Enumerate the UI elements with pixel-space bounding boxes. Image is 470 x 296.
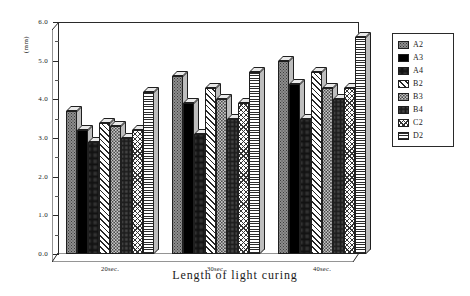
- bar-a4-30sec[interactable]: [194, 134, 205, 254]
- legend-swatch-a3: [398, 54, 409, 62]
- bar-face: [344, 88, 355, 254]
- legend-swatch-c2: [398, 119, 409, 127]
- bar-group: [66, 22, 162, 254]
- bar-b3-40sec[interactable]: [322, 88, 333, 254]
- bar-face: [110, 126, 121, 254]
- legend-swatch-b4: [398, 106, 409, 114]
- legend: A2A3A4B2B3B4C2D2: [392, 33, 454, 147]
- plot-area: 0.01.02.03.04.05.06.0 20sec.30sec.40sec.: [52, 22, 359, 262]
- bar-d2-40sec[interactable]: [355, 37, 366, 254]
- legend-item-b2[interactable]: B2: [398, 77, 449, 90]
- legend-swatch-b2: [398, 80, 409, 88]
- bar-b3-20sec[interactable]: [110, 126, 121, 254]
- bar-d2-30sec[interactable]: [249, 72, 260, 254]
- bar-d2-20sec[interactable]: [143, 92, 154, 254]
- bar-a4-20sec[interactable]: [88, 142, 99, 254]
- legend-swatch-b3: [398, 93, 409, 101]
- bar-a3-20sec[interactable]: [77, 130, 88, 254]
- bar-b4-40sec[interactable]: [333, 99, 344, 254]
- legend-item-a3[interactable]: A3: [398, 51, 449, 64]
- legend-item-b4[interactable]: B4: [398, 103, 449, 116]
- bar-face: [322, 88, 333, 254]
- bar-face: [99, 123, 110, 254]
- bar-face: [121, 138, 132, 254]
- bar-a4-40sec[interactable]: [300, 119, 311, 254]
- bar-face: [249, 72, 260, 254]
- legend-label: C2: [413, 119, 423, 127]
- bar-b2-20sec[interactable]: [99, 123, 110, 254]
- bar-group: [278, 22, 374, 254]
- legend-label: B2: [413, 80, 423, 88]
- legend-item-c2[interactable]: C2: [398, 116, 449, 129]
- bar-face: [66, 111, 77, 254]
- bar-face: [278, 61, 289, 254]
- x-axis-title: Length of light curing: [0, 268, 470, 283]
- bar-a2-20sec[interactable]: [66, 111, 77, 254]
- bar-side: [260, 67, 265, 254]
- legend-item-a2[interactable]: A2: [398, 38, 449, 51]
- bar-face: [289, 84, 300, 254]
- legend-item-b3[interactable]: B3: [398, 90, 449, 103]
- chart-root: (mm) 0.01.02.03.04.05.06.0 20sec.30sec.4…: [0, 0, 470, 296]
- legend-label: A2: [413, 41, 423, 49]
- bar-face: [311, 72, 322, 254]
- bar-face: [355, 37, 366, 254]
- bar-a3-40sec[interactable]: [289, 84, 300, 254]
- bar-face: [205, 88, 216, 254]
- bar-face: [194, 134, 205, 254]
- bar-face: [227, 119, 238, 254]
- y-tick-label: 4.0: [38, 96, 48, 103]
- bar-face: [216, 99, 227, 254]
- bar-a3-30sec[interactable]: [183, 103, 194, 254]
- legend-swatch-d2: [398, 132, 409, 140]
- y-tick-label: 3.0: [38, 135, 48, 142]
- bar-side: [366, 32, 371, 254]
- bar-b2-40sec[interactable]: [311, 72, 322, 254]
- bar-face: [333, 99, 344, 254]
- bar-face: [238, 103, 249, 254]
- y-tick-label: 2.0: [38, 173, 48, 180]
- bar-groups: [58, 22, 359, 254]
- bar-face: [300, 119, 311, 254]
- y-tick-label: 6.0: [38, 19, 48, 26]
- y-tick: [53, 254, 59, 255]
- bar-b3-30sec[interactable]: [216, 99, 227, 254]
- legend-label: B3: [413, 93, 423, 101]
- bar-face: [88, 142, 99, 254]
- legend-item-a4[interactable]: A4: [398, 64, 449, 77]
- bar-face: [132, 130, 143, 254]
- bar-face: [77, 130, 88, 254]
- y-tick-label: 0.0: [38, 251, 48, 258]
- legend-label: A4: [413, 67, 423, 75]
- legend-label: D2: [413, 132, 423, 140]
- y-axis-title: (mm): [22, 36, 30, 53]
- bar-side: [154, 87, 159, 254]
- legend-label: B4: [413, 106, 423, 114]
- y-tick-label: 5.0: [38, 57, 48, 64]
- legend-label: A3: [413, 54, 423, 62]
- bar-c2-40sec[interactable]: [344, 88, 355, 254]
- legend-item-d2[interactable]: D2: [398, 129, 449, 142]
- bar-c2-30sec[interactable]: [238, 103, 249, 254]
- bar-group: [172, 22, 268, 254]
- bar-b2-30sec[interactable]: [205, 88, 216, 254]
- bar-face: [183, 103, 194, 254]
- bar-b4-30sec[interactable]: [227, 119, 238, 254]
- bar-c2-20sec[interactable]: [132, 130, 143, 254]
- bar-face: [143, 92, 154, 254]
- legend-swatch-a4: [398, 67, 409, 75]
- legend-swatch-a2: [398, 41, 409, 49]
- bar-b4-20sec[interactable]: [121, 138, 132, 254]
- bar-a2-40sec[interactable]: [278, 61, 289, 254]
- y-tick-label: 1.0: [38, 212, 48, 219]
